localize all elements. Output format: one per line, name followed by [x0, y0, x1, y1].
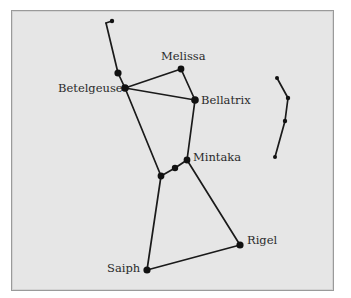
star-shield_2 [286, 96, 290, 100]
label-mintaka: Mintaka [193, 152, 241, 164]
star-rigel [236, 241, 243, 248]
edge-shield_2-shield_3 [285, 98, 288, 121]
edge-shield_3-shield_4 [275, 121, 285, 157]
star-shield_1 [275, 76, 279, 80]
star-mintaka [184, 157, 191, 164]
star-shield_3 [283, 119, 287, 123]
star-alnilam [172, 165, 178, 171]
star-shield_4 [273, 155, 277, 159]
edge-saiph-rigel [147, 245, 240, 270]
star-melissa [178, 66, 185, 73]
edge-betelgeuse-alnitak [125, 88, 161, 176]
label-betelgeuse: Betelgeuse [58, 83, 123, 95]
constellation-diagram [0, 0, 351, 298]
star-bellatrix [191, 96, 199, 104]
star-club_tip [110, 19, 114, 23]
edge-shield_1-shield_2 [277, 78, 288, 98]
edge-melissa-bellatrix [181, 69, 195, 100]
label-bellatrix: Bellatrix [201, 95, 251, 107]
edge-betelgeuse-melissa [125, 69, 181, 88]
star-shoulder_upper [114, 69, 121, 76]
edge-mintaka-rigel [187, 160, 240, 245]
edge-club_hook-shoulder_upper [106, 23, 118, 73]
edge-betelgeuse-bellatrix [125, 88, 195, 100]
label-melissa: Melissa [161, 51, 206, 63]
edge-alnitak-saiph [147, 176, 161, 270]
label-rigel: Rigel [247, 235, 277, 247]
star-alnitak [158, 173, 165, 180]
label-saiph: Saiph [107, 263, 140, 275]
star-saiph [143, 266, 150, 273]
